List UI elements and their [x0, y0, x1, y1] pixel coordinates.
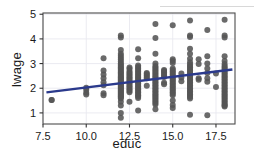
svg-text:1: 1: [30, 107, 36, 119]
x-axis-title: educ: [0, 136, 254, 151]
svg-text:2: 2: [30, 82, 36, 94]
figure-scatterplot-lwage-vs-educ: 7.510.012.515.017.512345 educ lwage: [0, 0, 254, 163]
svg-text:4: 4: [30, 33, 36, 45]
y-axis-title: lwage: [9, 40, 24, 100]
svg-text:3: 3: [30, 58, 36, 70]
svg-text:5: 5: [30, 8, 36, 20]
